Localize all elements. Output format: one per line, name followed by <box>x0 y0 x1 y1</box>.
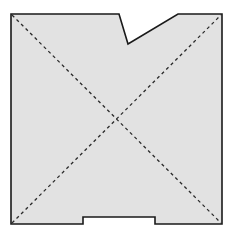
technical-drawing-figure <box>0 0 235 238</box>
